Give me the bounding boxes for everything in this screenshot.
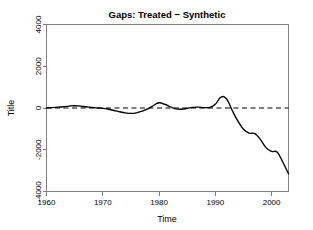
y-tick-label: -2000 [34, 139, 43, 160]
gaps-line-chart: Gaps: Treated − Synthetic 19601970198019… [0, 0, 313, 230]
chart-title: Gaps: Treated − Synthetic [109, 9, 226, 20]
x-tick-label: 1970 [94, 198, 112, 207]
x-tick-label: 1990 [206, 198, 224, 207]
y-tick-label: -4000 [34, 181, 43, 202]
y-tick-label: 4000 [34, 15, 43, 33]
y-tick-label: 2000 [34, 57, 43, 75]
y-tick-label: 0 [34, 105, 43, 110]
chart-figure: Gaps: Treated − Synthetic 19601970198019… [0, 0, 313, 230]
y-axis-title: Title [6, 100, 16, 117]
x-tick-label: 2000 [263, 198, 281, 207]
x-tick-label: 1980 [150, 198, 168, 207]
x-axis-title: Time [157, 214, 177, 224]
